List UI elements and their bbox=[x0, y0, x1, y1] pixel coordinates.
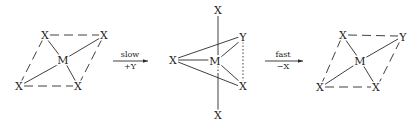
product-metal-center: M bbox=[353, 56, 366, 67]
intermediate-axial-top: X bbox=[213, 5, 223, 16]
reactant-ligand-bottom-right: X bbox=[73, 81, 83, 92]
fast-label: fast bbox=[275, 51, 290, 59]
add-y-label: +Y bbox=[124, 63, 136, 71]
lose-x-label: −X bbox=[277, 63, 289, 71]
reaction-scheme: X X M X X slow +Y X X M Y X X fast −X X … bbox=[0, 0, 419, 125]
intermediate-equatorial-right: X bbox=[238, 81, 248, 92]
product-ligand-bottom-right: X bbox=[371, 82, 381, 93]
reactant-ligand-top-right: X bbox=[99, 30, 109, 41]
reactant-ligand-bottom-left: X bbox=[14, 81, 24, 92]
product-ligand-top-right-y: Y bbox=[398, 32, 407, 43]
reactant-ligand-top-left: X bbox=[40, 30, 50, 41]
intermediate-equatorial-left: X bbox=[168, 55, 178, 66]
reactant-metal-center: M bbox=[56, 55, 69, 66]
product-ligand-bottom-left: X bbox=[315, 82, 325, 93]
intermediate-metal-center: M bbox=[208, 56, 221, 67]
slow-label: slow bbox=[121, 51, 139, 59]
product-ligand-top-left: X bbox=[338, 30, 348, 41]
intermediate-axial-bottom: X bbox=[213, 110, 223, 121]
intermediate-equatorial-y: Y bbox=[238, 32, 247, 43]
